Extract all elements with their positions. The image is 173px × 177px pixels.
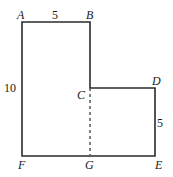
dimension-label-de: 5 — [157, 117, 163, 129]
vertex-label-e: E — [155, 159, 162, 171]
vertex-label-a: A — [17, 9, 24, 21]
dimension-label-af: 10 — [4, 82, 16, 94]
geometry-figure: A B C D E F G 5 10 5 — [0, 0, 173, 177]
polygon-outline — [22, 22, 155, 156]
vertex-label-f: F — [18, 159, 25, 171]
vertex-label-b: B — [86, 9, 93, 21]
vertex-label-c: C — [77, 89, 85, 101]
vertex-label-d: D — [152, 75, 161, 87]
dimension-label-ab: 5 — [52, 9, 58, 21]
figure-canvas — [0, 0, 173, 177]
vertex-label-g: G — [85, 159, 94, 171]
